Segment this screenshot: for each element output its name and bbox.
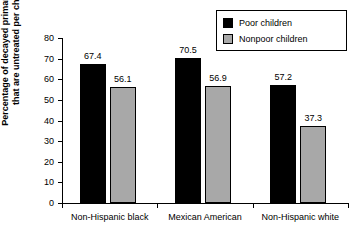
y-tick-label-30: 30 — [32, 137, 54, 146]
y-tick-30 — [58, 141, 62, 142]
black-square-swatch-icon — [223, 18, 233, 28]
y-tick-label-10: 10 — [32, 178, 54, 187]
y-tick-10 — [58, 182, 62, 183]
y-tick-60 — [58, 79, 62, 80]
value-label-poor-1: 67.4 — [84, 52, 102, 61]
x-axis-line — [62, 203, 349, 204]
x-category-label-3: Non-Hispanic white — [262, 212, 340, 222]
x-tick-2 — [253, 203, 254, 208]
legend-item-nonpoor-children: Nonpoor children — [223, 31, 346, 47]
bar-nonpoor-3 — [300, 126, 326, 203]
y-tick-label-70: 70 — [32, 55, 54, 64]
x-category-label-1: Non-Hispanic black — [71, 212, 149, 222]
value-label-nonpoor-2: 56.9 — [209, 74, 227, 83]
y-tick-70 — [58, 59, 62, 60]
y-tick-50 — [58, 100, 62, 101]
x-tick-1 — [157, 203, 158, 208]
bar-poor-1 — [80, 64, 106, 203]
y-axis-line — [62, 38, 63, 204]
bar-poor-2 — [175, 58, 201, 203]
bar-poor-3 — [270, 85, 296, 203]
bar-nonpoor-2 — [205, 86, 231, 203]
y-axis-title: Percentage of decayed primary teeth that… — [0, 0, 28, 132]
y-tick-label-20: 20 — [32, 158, 54, 167]
x-category-label-2: Mexican American — [168, 212, 242, 222]
x-tick-0 — [62, 203, 63, 208]
bar-chart-figure: Percentage of decayed primary teeth that… — [0, 0, 354, 240]
y-axis-title-line-1: Percentage of decayed primary teeth — [0, 0, 11, 126]
y-tick-20 — [58, 162, 62, 163]
x-tick-3 — [348, 203, 349, 208]
y-tick-label-50: 50 — [32, 96, 54, 105]
y-tick-label-80: 80 — [32, 34, 54, 43]
y-tick-40 — [58, 121, 62, 122]
y-tick-label-40: 40 — [32, 117, 54, 126]
y-tick-label-60: 60 — [32, 75, 54, 84]
legend-label-poor-children: Poor children — [239, 18, 292, 28]
value-label-poor-3: 57.2 — [275, 73, 293, 82]
y-tick-80 — [58, 38, 62, 39]
legend-item-poor-children: Poor children — [223, 15, 346, 31]
y-tick-label-0: 0 — [32, 199, 54, 208]
y-axis-title-line-2: that are untreated per child — [11, 0, 22, 105]
value-label-nonpoor-1: 56.1 — [114, 75, 132, 84]
value-label-poor-2: 70.5 — [179, 46, 197, 55]
legend-label-nonpoor-children: Nonpoor children — [239, 34, 308, 44]
value-label-nonpoor-3: 37.3 — [305, 114, 323, 123]
plot-area: 01020304050607080 67.456.170.556.957.237… — [62, 38, 348, 203]
legend: Poor children Nonpoor children — [216, 10, 347, 51]
bar-nonpoor-1 — [110, 87, 136, 203]
gray-square-swatch-icon — [223, 34, 233, 44]
